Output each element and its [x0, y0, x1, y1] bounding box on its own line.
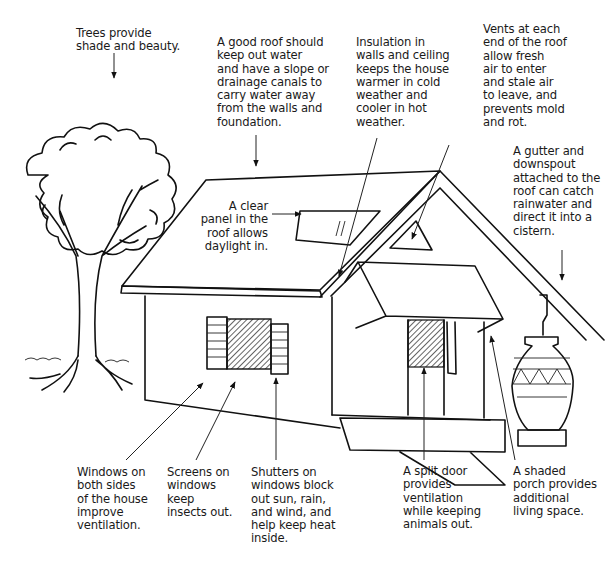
label-vents: Vents at each end of the roof allow fres…	[483, 23, 567, 129]
window-with-shutters	[207, 317, 288, 374]
split-door	[408, 320, 484, 418]
label-clear-panel: A clear panel in the roof allows dayligh…	[200, 200, 268, 253]
gutter-downspout	[540, 295, 547, 335]
label-porch: A shaded porch provides additional livin…	[513, 465, 597, 518]
gable-vent	[390, 221, 432, 250]
cistern-jar	[512, 337, 573, 446]
tree	[25, 123, 176, 392]
label-split-door: A split door provides ventilation while …	[403, 465, 481, 531]
label-roof: A good roof should keep out water and ha…	[217, 36, 329, 129]
label-shutters: Shutters on windows block out sun, rain,…	[251, 466, 335, 546]
label-screens: Screens on windows keep insects out.	[167, 466, 232, 519]
label-windows: Windows on both sides of the house impro…	[77, 466, 148, 532]
label-trees: Trees provide shade and beauty.	[76, 27, 180, 54]
roof	[122, 171, 440, 290]
label-gutter: A gutter and downspout attached to the r…	[513, 145, 600, 238]
label-insulation: Insulation in walls and ceiling keeps th…	[356, 36, 450, 129]
